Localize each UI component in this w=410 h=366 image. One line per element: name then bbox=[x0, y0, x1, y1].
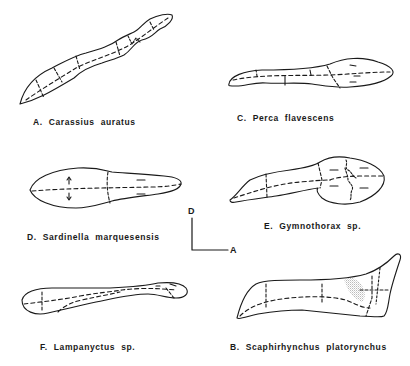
otolith-carassius-auratus bbox=[20, 14, 172, 104]
otolith-perca-flavescens bbox=[229, 58, 393, 88]
label-scaphirhynchus-platorynchus: B. Scaphirhynchus platorynchus bbox=[230, 342, 387, 352]
otolith-lampanyctus bbox=[22, 283, 187, 314]
otolith-scaphirhynchus bbox=[237, 254, 401, 319]
label-carassius-auratus: A. Carassius auratus bbox=[33, 117, 136, 127]
label-gymnothorax: E. Gymnothorax sp. bbox=[264, 221, 361, 231]
diagram-canvas bbox=[0, 0, 410, 366]
label-lampanyctus: F. Lampanyctus sp. bbox=[40, 342, 135, 352]
otolith-gymnothorax bbox=[230, 157, 384, 204]
otolith-sardinella-marquesensis bbox=[30, 168, 181, 208]
label-sardinella-marquesensis: D. Sardinella marquesensis bbox=[27, 232, 160, 242]
orientation-axes bbox=[192, 218, 228, 250]
axis-label-anterior: A bbox=[230, 245, 237, 255]
axis-label-dorsal: D bbox=[188, 206, 195, 216]
label-perca-flavescens: C. Perca flavescens bbox=[237, 113, 334, 123]
